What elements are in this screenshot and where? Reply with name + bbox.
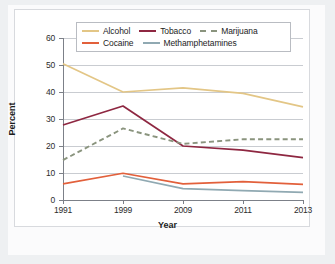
- legend-item-methamphetamines[interactable]: Methamphetamines: [143, 38, 237, 48]
- legend-item-marijuana[interactable]: Marijuana: [200, 26, 257, 36]
- legend-label: Tobacco: [160, 26, 191, 36]
- legend-label: Cocaine: [103, 38, 134, 48]
- legend-swatch-icon: [139, 30, 156, 32]
- legend-item-tobacco[interactable]: Tobacco: [139, 26, 191, 36]
- screenshot-root: 0102030405060 19911999200920112013 Perce…: [0, 0, 335, 264]
- legend-swatch-icon: [200, 30, 217, 32]
- legend-item-alcohol[interactable]: Alcohol: [82, 26, 130, 36]
- series-line-tobacco: [63, 106, 303, 158]
- legend-label: Methamphetamines: [164, 38, 237, 48]
- chart-legend: AlcoholTobaccoMarijuanaCocaineMethamphet…: [76, 22, 291, 52]
- y-axis-title: Percent: [7, 102, 17, 135]
- legend-label: Alcohol: [103, 26, 130, 36]
- legend-swatch-icon: [82, 42, 99, 44]
- legend-row: AlcoholTobaccoMarijuana: [82, 26, 285, 36]
- series-line-marijuana: [63, 128, 303, 160]
- legend-swatch-icon: [143, 42, 160, 44]
- legend-item-cocaine[interactable]: Cocaine: [82, 38, 134, 48]
- series-line-cocaine: [63, 173, 303, 184]
- line-chart: 0102030405060 19911999200920112013 Perce…: [0, 0, 335, 264]
- legend-swatch-icon: [82, 30, 99, 32]
- x-axis-title: Year: [0, 220, 335, 230]
- legend-label: Marijuana: [221, 26, 257, 36]
- legend-row: CocaineMethamphetamines: [82, 38, 285, 48]
- series-line-alcohol: [63, 64, 303, 107]
